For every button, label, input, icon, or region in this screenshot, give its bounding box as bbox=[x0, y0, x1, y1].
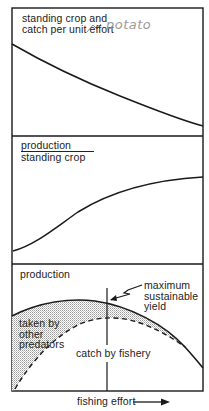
standing-crop-curve bbox=[12, 44, 203, 126]
predators-label-line1: taken by bbox=[19, 318, 64, 329]
fishery-catch-label: catch by fishery bbox=[76, 348, 151, 359]
msy-annotation-line1: maximum bbox=[144, 280, 198, 291]
msy-annotation: maximum sustainable yield bbox=[144, 280, 198, 312]
predators-label-line3: predators bbox=[19, 339, 64, 350]
x-axis-label: fishing effort bbox=[77, 396, 135, 407]
bottom-panel-label: production bbox=[20, 269, 70, 280]
top-panel-label: standing crop and catch per unit effort bbox=[22, 13, 114, 35]
handwritten-note: potato bbox=[106, 17, 151, 32]
right-arrow-icon bbox=[161, 399, 170, 406]
middle-panel-label: production standing crop bbox=[21, 140, 94, 163]
production-ratio-curve bbox=[13, 177, 203, 251]
middle-panel-denominator: standing crop bbox=[21, 152, 94, 163]
msy-arrowhead-icon bbox=[110, 295, 117, 301]
top-panel-label-line2: catch per unit effort bbox=[22, 24, 114, 35]
predators-region-label: taken by other predators bbox=[19, 318, 64, 350]
msy-annotation-line3: yield bbox=[144, 301, 198, 312]
